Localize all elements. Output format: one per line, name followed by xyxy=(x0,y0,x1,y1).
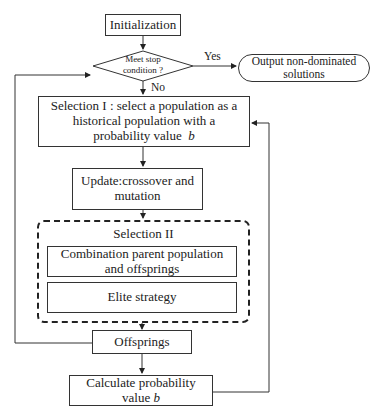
combination-box: Combination parent population and offspr… xyxy=(47,246,237,277)
yes-label: Yes xyxy=(204,50,221,62)
initialization-box: Initialization xyxy=(105,14,181,36)
stop-condition-decision: Meet stop condition ? xyxy=(113,54,173,76)
output-solutions-terminal: Output non-dominated solutions xyxy=(238,54,370,82)
variable-b: b xyxy=(188,128,195,143)
selection-1-box: Selection I : select a population as a h… xyxy=(38,96,250,147)
selection-2-title: Selection II xyxy=(37,226,250,242)
calculate-probability-box: Calculate probability value b xyxy=(69,375,213,406)
variable-b: b xyxy=(153,390,160,405)
no-label: No xyxy=(151,81,165,93)
update-box: Update:crossover and mutation xyxy=(72,168,203,210)
elite-strategy-box: Elite strategy xyxy=(47,282,237,313)
offsprings-box: Offsprings xyxy=(92,330,192,354)
